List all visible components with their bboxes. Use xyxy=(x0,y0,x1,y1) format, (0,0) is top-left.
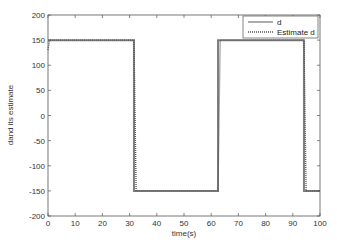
x-axis-label: time(s) xyxy=(172,229,197,238)
y-tick-label: 150 xyxy=(32,36,46,45)
x-tick-label: 10 xyxy=(71,219,80,228)
x-tick-label: 100 xyxy=(313,219,327,228)
y-tick-label: -100 xyxy=(29,162,46,171)
legend-label-estimate: Estimate d xyxy=(277,28,315,37)
x-tick-label: 80 xyxy=(261,219,270,228)
y-tick-label: -200 xyxy=(29,212,46,221)
axes-box xyxy=(48,15,320,216)
y-tick-label: 0 xyxy=(41,112,46,121)
x-tick-label: 40 xyxy=(152,219,161,228)
x-tick-label: 30 xyxy=(125,219,134,228)
series-layer xyxy=(48,40,320,191)
legend: d Estimate d xyxy=(243,16,318,38)
axes: 0102030405060708090100200150100500-50-10… xyxy=(29,11,327,228)
y-tick-label: 200 xyxy=(32,11,46,20)
y-tick-label: -150 xyxy=(29,187,46,196)
x-tick-label: 20 xyxy=(98,219,107,228)
x-tick-label: 60 xyxy=(207,219,216,228)
legend-label-d: d xyxy=(277,18,281,27)
y-tick-label: -50 xyxy=(33,137,45,146)
x-tick-label: 70 xyxy=(234,219,243,228)
x-tick-label: 0 xyxy=(46,219,51,228)
y-tick-label: 100 xyxy=(32,61,46,70)
x-tick-label: 90 xyxy=(288,219,297,228)
x-tick-label: 50 xyxy=(180,219,189,228)
chart: 0102030405060708090100200150100500-50-10… xyxy=(0,0,337,250)
series-estimate-d xyxy=(48,40,320,191)
y-axis-label: dand its estimate xyxy=(6,84,15,145)
y-tick-label: 50 xyxy=(36,86,45,95)
series-d xyxy=(48,40,320,191)
